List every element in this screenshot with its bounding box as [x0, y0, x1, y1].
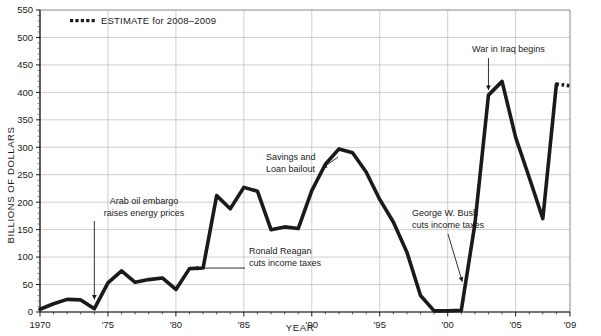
y-tick-label: 50 — [22, 279, 33, 290]
annotation-savings-loan-line1: Savings and — [266, 152, 316, 162]
y-tick-label: 500 — [17, 32, 33, 43]
x-tick-label: 1970 — [29, 319, 50, 330]
x-tick-label: '00 — [441, 319, 453, 330]
y-tick-label: 150 — [17, 224, 33, 235]
legend-dotted-marker — [70, 19, 73, 22]
annotation-arab-oil-embargo-line1: Arab oil embargo — [110, 196, 179, 206]
x-tick-label: '95 — [374, 319, 386, 330]
series-line-estimate — [556, 84, 570, 86]
y-tick-label: 0 — [28, 306, 33, 317]
y-tick-label: 250 — [17, 169, 33, 180]
annotation-ronald-reagan-line1: Ronald Reagan — [249, 246, 312, 256]
y-tick-label: 300 — [17, 142, 33, 153]
y-tick-label: 100 — [17, 251, 33, 262]
y-axis-title: BILLIONS OF DOLLARS — [5, 127, 16, 244]
legend-dotted-marker — [92, 19, 95, 22]
deficit-line-chart: 050100150200250300350400450500550 1970'7… — [0, 0, 601, 336]
legend-dotted-marker — [86, 19, 89, 22]
annotation-george-w-bush-line1: George W. Bush — [412, 208, 478, 218]
y-tick-label: 350 — [17, 114, 33, 125]
legend-estimate-label: ESTIMATE for 2008–2009 — [101, 15, 216, 26]
y-tick-label: 550 — [17, 4, 33, 15]
x-tick-label: '75 — [102, 319, 114, 330]
x-tick-label: '85 — [238, 319, 250, 330]
y-tick-label: 200 — [17, 197, 33, 208]
y-tick-label: 400 — [17, 87, 33, 98]
legend-dotted-marker — [81, 19, 84, 22]
annotation-george-w-bush-line2: cuts income taxes — [412, 220, 485, 230]
annotation-arab-oil-embargo-line2: raises energy prices — [104, 208, 185, 218]
x-tick-label: '05 — [509, 319, 521, 330]
legend-dotted-marker — [75, 19, 78, 22]
annotation-ronald-reagan-line2: cuts income taxes — [249, 258, 322, 268]
annotation-savings-loan-line2: Loan bailout — [266, 164, 316, 174]
x-tick-label: '80 — [170, 319, 182, 330]
chart-container: 050100150200250300350400450500550 1970'7… — [0, 0, 601, 336]
y-tick-label: 450 — [17, 59, 33, 70]
x-tick-label: '09 — [564, 319, 576, 330]
annotation-war-in-iraq-line1: War in Iraq begins — [472, 44, 545, 54]
x-axis-title: YEAR — [286, 322, 314, 333]
